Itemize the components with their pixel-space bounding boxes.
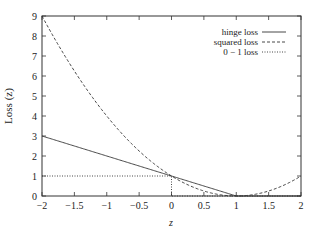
loss-function-chart: −2−1.5−1−0.500.511.52 0123456789 z Loss …	[0, 0, 319, 233]
y-axis-tick-labels: 0123456789	[32, 11, 37, 202]
x-tick-label: 0.5	[198, 200, 211, 211]
y-tick-label: 5	[32, 91, 37, 102]
plot-lines	[42, 16, 301, 196]
legend-label: 0 − 1 loss	[223, 47, 258, 57]
legend-label: squared loss	[214, 37, 259, 47]
y-tick-label: 7	[32, 51, 37, 62]
x-tick-label: 1	[234, 200, 239, 211]
y-tick-label: 9	[32, 11, 37, 22]
x-tick-label: 0	[169, 200, 174, 211]
y-tick-label: 4	[32, 111, 37, 122]
series-line-1	[42, 16, 301, 196]
y-tick-label: 0	[32, 191, 37, 202]
y-tick-label: 2	[32, 151, 37, 162]
y-tick-label: 3	[32, 131, 37, 142]
plot-frame	[42, 16, 301, 196]
x-tick-label: −1.5	[65, 200, 83, 211]
x-axis-tick-labels: −2−1.5−1−0.500.511.52	[37, 200, 304, 211]
legend-label: hinge loss	[222, 27, 259, 37]
y-tick-label: 8	[32, 31, 37, 42]
axis-ticks	[42, 16, 301, 196]
x-tick-label: −1	[101, 200, 112, 211]
x-tick-label: 1.5	[262, 200, 275, 211]
x-tick-label: 2	[299, 200, 304, 211]
x-tick-label: −2	[37, 200, 48, 211]
legend: hinge losssquared loss0 − 1 loss	[214, 27, 286, 57]
y-tick-label: 6	[32, 71, 37, 82]
y-tick-label: 1	[32, 171, 37, 182]
x-tick-label: −0.5	[130, 200, 148, 211]
x-axis-label: z	[168, 217, 173, 228]
y-axis-label: Loss (z)	[2, 88, 15, 124]
